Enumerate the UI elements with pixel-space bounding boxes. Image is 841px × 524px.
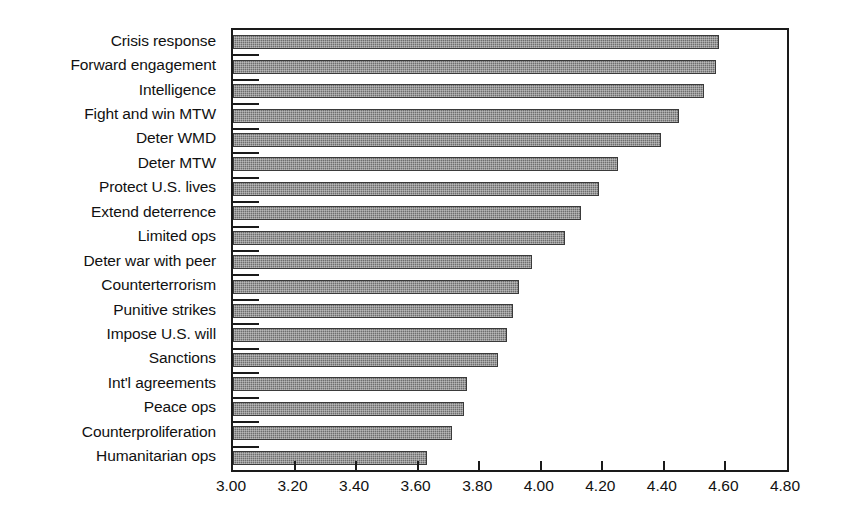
y-axis-tick [233,152,259,154]
bar-row [233,226,787,250]
plot-inner [233,30,787,470]
y-axis-label: Deter MTW [138,154,216,171]
x-axis-tick-label: 4.80 [770,476,800,495]
bar [233,255,532,269]
y-axis-label-cell: Counterproliferation [0,419,222,443]
y-axis-label-cell: Deter WMD [0,126,222,150]
bar-chart: Crisis responseForward engagementIntelli… [0,0,841,524]
bar-row [233,201,787,225]
x-axis-tick-label: 3.00 [216,476,246,495]
x-axis-tick [294,461,296,470]
y-axis-label-cell: Fight and win MTW [0,101,222,125]
y-axis-label-cell: Impose U.S. will [0,321,222,345]
y-axis-label-cell: Crisis response [0,28,222,52]
bar [233,353,498,367]
x-axis-tick-label: 3.40 [339,476,369,495]
bar-row [233,128,787,152]
y-axis-label: Impose U.S. will [106,325,216,342]
x-axis-tick-label: 4.40 [647,476,677,495]
y-axis-label: Punitive strikes [113,301,216,318]
y-axis-label: Deter war with peer [84,252,216,269]
y-axis-label: Sanctions [149,349,216,366]
bar-row [233,103,787,127]
y-axis-label: Extend deterrence [91,203,216,220]
y-axis-label-cell: Limited ops [0,224,222,248]
bar [233,328,507,342]
y-axis-label: Limited ops [138,227,216,244]
x-axis-tick-label: 4.60 [708,476,738,495]
y-axis-tick [233,299,259,301]
bar [233,157,618,171]
x-axis-tick-labels: 3.003.203.403.603.804.004.204.404.604.80 [231,476,785,500]
y-axis-tick [233,397,259,399]
y-axis-tick [233,103,259,105]
x-axis-tick [663,461,665,470]
bar-row [233,421,787,445]
y-axis-tick [233,274,259,276]
bar-row [233,372,787,396]
y-axis-label-cell: Extend deterrence [0,199,222,223]
y-axis-label-cell: Sanctions [0,346,222,370]
bar-row [233,445,787,469]
bar [233,280,519,294]
y-axis-label: Counterproliferation [82,423,216,440]
y-axis-tick [233,226,259,228]
bar [233,451,427,465]
bar-row [233,299,787,323]
y-axis-label-cell: Peace ops [0,395,222,419]
y-axis-label: Int'l agreements [108,374,216,391]
bar [233,84,704,98]
x-axis-tick [417,461,419,470]
y-axis-tick [233,128,259,130]
y-axis-label-cell: Protect U.S. lives [0,175,222,199]
x-axis-tick-label: 4.20 [585,476,615,495]
bar [233,109,679,123]
bar-row [233,397,787,421]
y-axis-tick [233,177,259,179]
bar-row [233,323,787,347]
bar-row [233,274,787,298]
plot-area [231,28,789,472]
bar-series [233,30,787,470]
y-axis-label: Fight and win MTW [84,105,216,122]
y-axis-label: Forward engagement [70,56,216,73]
y-axis-tick [233,421,259,423]
bar-row [233,54,787,78]
y-axis-label: Humanitarian ops [96,447,216,464]
y-axis-label-cell: Punitive strikes [0,297,222,321]
bar [233,182,599,196]
y-axis-label-cell: Counterterrorism [0,272,222,296]
y-axis-label: Intelligence [139,81,216,98]
y-axis-tick [233,250,259,252]
y-axis-label-cell: Int'l agreements [0,370,222,394]
x-axis-tick-label: 4.00 [524,476,554,495]
y-axis-label: Crisis response [111,32,216,49]
x-axis-tick [540,461,542,470]
y-axis-category-labels: Crisis responseForward engagementIntelli… [0,28,222,468]
bar [233,377,467,391]
x-axis-tick [478,461,480,470]
y-axis-label: Peace ops [144,398,216,415]
x-axis-tick [724,461,726,470]
bar [233,60,716,74]
bar [233,304,513,318]
y-axis-tick [233,446,259,448]
bar-row [233,79,787,103]
bar [233,426,452,440]
y-axis-label-cell: Humanitarian ops [0,443,222,467]
bar-row [233,348,787,372]
y-axis-label-cell: Forward engagement [0,52,222,76]
bar [233,35,719,49]
y-axis-label: Counterterrorism [101,276,216,293]
x-axis-tick-label: 3.80 [462,476,492,495]
x-axis-tick [355,461,357,470]
y-axis-tick [233,372,259,374]
bar [233,231,565,245]
bar [233,133,661,147]
y-axis-tick [233,79,259,81]
y-axis-tick [233,201,259,203]
x-axis-tick-label: 3.60 [401,476,431,495]
y-axis-label: Protect U.S. lives [99,178,216,195]
bar [233,402,464,416]
y-axis-tick [233,323,259,325]
